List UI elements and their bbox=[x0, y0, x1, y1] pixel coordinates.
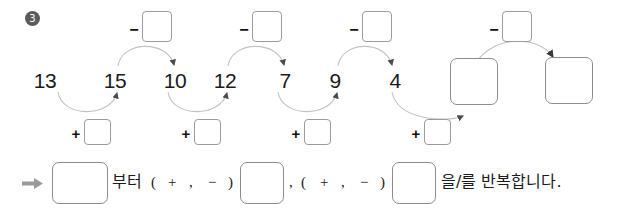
problem-number-badge: 3 bbox=[25, 11, 40, 26]
answer-sentence-row: 부터 ( + , − ) , ( + , − ) 을/를 반복합니다. bbox=[0, 158, 619, 212]
sentence-answer-box-3[interactable] bbox=[392, 162, 436, 204]
plus-sign-2: + bbox=[180, 126, 192, 141]
chain-number-2: 15 bbox=[98, 70, 132, 91]
chain-number-1: 13 bbox=[28, 70, 62, 91]
chain-number-4: 12 bbox=[208, 70, 242, 91]
sentence-plus-1: + bbox=[168, 174, 176, 190]
sentence-plus-2: + bbox=[320, 174, 328, 190]
plus-answer-box-2[interactable] bbox=[194, 119, 221, 145]
paren-open-2: ( bbox=[301, 174, 306, 190]
minus-sign-1: − bbox=[128, 22, 140, 37]
right-arrow-icon bbox=[22, 177, 44, 190]
paren-open-1: ( bbox=[151, 174, 156, 190]
sentence-answer-box-2[interactable] bbox=[240, 162, 284, 204]
sentence-text-repeat: 을/를 반복합니다. bbox=[441, 173, 562, 191]
sentence-comma-2: , bbox=[341, 174, 345, 190]
minus-answer-box-3[interactable] bbox=[362, 11, 392, 42]
minus-sign-4: − bbox=[488, 22, 500, 37]
sentence-comma-1: , bbox=[189, 174, 193, 190]
minus-answer-box-2[interactable] bbox=[252, 11, 282, 42]
minus-sign-3: − bbox=[348, 22, 360, 37]
minus-answer-box-1[interactable] bbox=[142, 11, 172, 42]
sentence-comma-mid: , bbox=[289, 174, 293, 190]
chain-number-3: 10 bbox=[158, 70, 192, 91]
plus-sign-1: + bbox=[70, 126, 82, 141]
plus-sign-3: + bbox=[290, 126, 302, 141]
plus-answer-box-1[interactable] bbox=[84, 119, 111, 145]
result-answer-box-2[interactable] bbox=[545, 57, 593, 104]
chain-number-5: 7 bbox=[268, 70, 302, 91]
sentence-text-buteo: 부터 bbox=[112, 173, 142, 191]
sentence-answer-box-1[interactable] bbox=[52, 162, 108, 204]
chain-number-7: 4 bbox=[378, 70, 412, 91]
plus-answer-box-4[interactable] bbox=[424, 119, 451, 145]
minus-answer-box-4[interactable] bbox=[502, 11, 532, 42]
paren-close-1: ) bbox=[228, 174, 233, 190]
sentence-minus-1: − bbox=[208, 174, 216, 190]
minus-sign-2: − bbox=[238, 22, 250, 37]
sentence-minus-2: − bbox=[360, 174, 368, 190]
plus-answer-box-3[interactable] bbox=[304, 119, 331, 145]
paren-close-2: ) bbox=[380, 174, 385, 190]
chain-number-6: 9 bbox=[318, 70, 352, 91]
plus-sign-4: + bbox=[410, 126, 422, 141]
result-answer-box-1[interactable] bbox=[450, 58, 498, 105]
worksheet-problem: 3 − − − − 13 15 10 12 7 9 4 bbox=[0, 0, 619, 212]
